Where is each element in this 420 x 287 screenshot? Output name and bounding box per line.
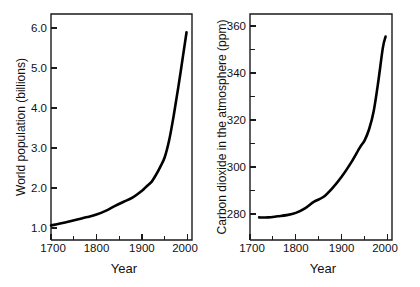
- x-axis-ticks: [51, 234, 187, 240]
- x-axis-tick-labels: 1700 1800 1900 2000: [40, 242, 198, 254]
- x-tick-label: 1800: [84, 242, 110, 254]
- x-axis-title: Year: [310, 261, 337, 276]
- x-tick-label: 2000: [372, 242, 398, 254]
- x-tick-label: 1700: [239, 242, 265, 254]
- y-axis-title: World population (billions): [14, 58, 28, 196]
- y-axis-tick-labels: 360 340 320 300 280: [227, 20, 246, 220]
- x-axis-tick-labels: 1700 1800 1900 2000: [239, 242, 398, 254]
- y-tick-label: 3.0: [31, 142, 47, 154]
- y-tick-label: 280: [227, 208, 246, 220]
- y-axis-ticks: [51, 28, 57, 228]
- y-axis-tick-labels: 6.0 5.0 4.0 3.0 2.0 1.0: [31, 22, 47, 234]
- y-tick-label: 6.0: [31, 22, 47, 34]
- chart-panel-carbon-dioxide: 360 340 320 300 280 1700 1800 1900: [210, 0, 420, 287]
- x-tick-label: 1800: [283, 242, 309, 254]
- x-tick-label: 1900: [329, 242, 355, 254]
- y-tick-label: 5.0: [31, 62, 47, 74]
- population-curve: [51, 32, 187, 225]
- y-tick-label: 4.0: [31, 102, 47, 114]
- x-tick-label: 2000: [172, 242, 198, 254]
- y-tick-label: 340: [227, 67, 246, 79]
- y-axis-ticks: [250, 26, 256, 214]
- y-tick-label: 1.0: [31, 222, 47, 234]
- carbon-dioxide-curve: [259, 37, 385, 218]
- y-tick-label: 320: [227, 114, 246, 126]
- y-tick-label: 360: [227, 20, 246, 32]
- y-tick-label: 300: [227, 161, 246, 173]
- x-axis-ticks: [250, 234, 387, 240]
- x-tick-label: 1900: [129, 242, 155, 254]
- figure-container: 6.0 5.0 4.0 3.0 2.0 1.0 1700 1800: [0, 0, 420, 287]
- x-axis-title: Year: [111, 261, 138, 276]
- x-tick-label: 1700: [40, 242, 66, 254]
- chart-panel-world-population: 6.0 5.0 4.0 3.0 2.0 1.0 1700 1800: [0, 0, 210, 287]
- y-tick-label: 2.0: [31, 182, 47, 194]
- world-population-chart: 6.0 5.0 4.0 3.0 2.0 1.0 1700 1800: [0, 0, 210, 287]
- y-axis-title: Carbon dioxide in the atmosphere (ppm): [215, 20, 229, 235]
- carbon-dioxide-chart: 360 340 320 300 280 1700 1800 1900: [210, 0, 420, 287]
